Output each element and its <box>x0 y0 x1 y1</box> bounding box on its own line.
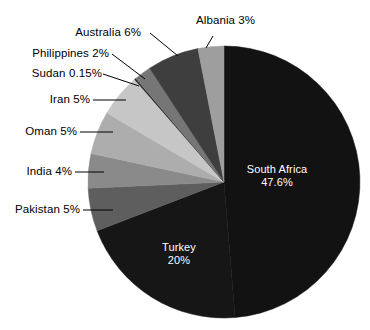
pie-chart: Albania 3% Australia 6% Philippines 2% S… <box>0 0 370 330</box>
slice-label-turkey: Turkey 20% <box>144 241 214 267</box>
leader-line-albania <box>206 36 213 48</box>
slice-label-turkey-name: Turkey <box>162 241 196 253</box>
slice-label-philippines: Philippines 2% <box>32 47 109 60</box>
leader-line-philippines <box>112 54 145 79</box>
leader-line-sudan <box>103 74 139 86</box>
slice-label-south-africa-pct: 47.6% <box>232 176 322 189</box>
slice-label-australia: Australia 6% <box>75 26 141 39</box>
slice-label-sudan: Sudan 0.15% <box>32 67 102 80</box>
slice-label-india: India 4% <box>26 165 72 178</box>
slice-label-turkey-pct: 20% <box>144 254 214 267</box>
slice-label-oman: Oman 5% <box>25 125 77 138</box>
slice-label-pakistan: Pakistan 5% <box>15 203 80 216</box>
leader-line-australia <box>150 33 178 56</box>
slice-label-iran: Iran 5% <box>50 93 90 106</box>
slice-label-albania: Albania 3% <box>196 14 255 27</box>
slice-label-south-africa: South Africa 47.6% <box>232 163 322 189</box>
slice-label-south-africa-name: South Africa <box>247 163 308 175</box>
